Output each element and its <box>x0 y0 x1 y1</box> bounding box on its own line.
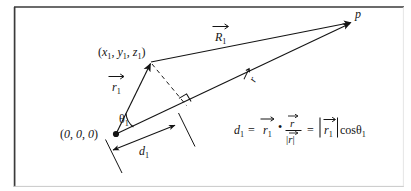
label-angle-theta1: θ1 <box>119 112 129 128</box>
label-vector-R1: R1 <box>213 24 229 46</box>
eq-equals-2: = <box>307 123 314 137</box>
svg-text:(x1, y1, z1): (x1, y1, z1) <box>98 45 146 61</box>
eq-r1-sub: 1 <box>268 130 272 139</box>
eq-den-bar-right: | <box>292 133 294 145</box>
svg-text:cosθ1: cosθ1 <box>340 123 366 139</box>
label-source-point: (x1, y1, z1) <box>98 45 146 61</box>
eq-fraction-r-over-mag-r: r |r| <box>286 114 302 145</box>
equation-d1: d1 = r1 • r <box>234 114 366 145</box>
label-p-text: p <box>354 7 361 21</box>
overarrow-r1-icon <box>109 74 125 79</box>
figure-container: (0, 0, 0) (x1, y1, z1) p r1 R1 <box>0 0 411 191</box>
svg-text:(0, 0, 0): (0, 0, 0) <box>60 127 98 141</box>
eq-dot-operator: • <box>278 120 282 134</box>
R1-sub: 1 <box>222 37 226 46</box>
eq-mag-sub: 1 <box>329 130 333 139</box>
svg-text:d1: d1 <box>139 144 149 160</box>
eq-magnitude-r1: r1 <box>320 117 338 139</box>
label-origin: (0, 0, 0) <box>60 127 98 141</box>
theta-sub: 1 <box>125 119 129 128</box>
vector-projection-diagram: (0, 0, 0) (x1, y1, z1) p r1 R1 <box>0 0 411 191</box>
origin-paren-close: ) <box>94 127 98 141</box>
eq-cos-sub: 1 <box>362 130 366 139</box>
svg-text:|r|: |r| <box>286 133 295 145</box>
eq-frac-denominator: |r| <box>286 131 298 145</box>
eq-frac-num-text: r <box>290 117 295 129</box>
svg-text:θ1: θ1 <box>119 112 129 128</box>
svg-text:R1: R1 <box>214 30 226 46</box>
vector-r-arrow <box>116 24 350 135</box>
label-vector-r1: r1 <box>109 74 125 96</box>
label-field-point-p: p <box>354 7 361 21</box>
overarrow-eq-mag-icon <box>324 117 336 121</box>
svg-text:r1: r1 <box>263 123 272 139</box>
overarrow-eq-r1-icon <box>261 117 275 121</box>
eq-d-sub: 1 <box>240 130 244 139</box>
origin-point-dot <box>113 131 119 137</box>
svg-text:d1: d1 <box>234 123 244 139</box>
eq-cos-text: cos <box>340 123 356 137</box>
svg-text:r1: r1 <box>112 80 121 96</box>
vector-R1-arrow <box>151 23 351 63</box>
d1-sub: 1 <box>145 151 149 160</box>
perpendicular-dashed-line <box>152 64 187 106</box>
src-paren-close: ) <box>142 45 146 59</box>
r1-sub: 1 <box>117 87 121 96</box>
eq-term-r1: r1 <box>261 117 275 139</box>
overarrow-R1-icon <box>213 24 229 29</box>
svg-text:r1: r1 <box>324 123 333 139</box>
right-angle-marker <box>179 94 191 102</box>
eq-equals-1: = <box>248 123 255 137</box>
label-distance-d1: d1 <box>139 144 149 160</box>
figure-border <box>14 7 404 187</box>
eq-frac-numerator: r <box>288 114 298 129</box>
label-r-text: r <box>246 74 259 84</box>
